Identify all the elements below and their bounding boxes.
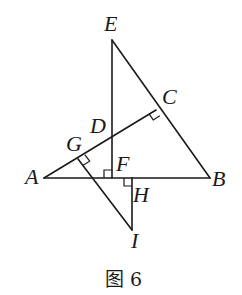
point-label-d: D (90, 115, 106, 137)
figure-lines (0, 0, 242, 295)
figure-caption: 图 6 (105, 270, 142, 289)
point-label-i: I (131, 230, 138, 252)
right-angle-mark-f (104, 170, 112, 178)
point-label-b: B (212, 168, 225, 190)
geometry-figure: E C D G A F B H I 图 6 (0, 0, 242, 295)
right-angle-mark-g (83, 155, 90, 166)
point-label-e: E (104, 13, 117, 35)
right-angle-mark-h (124, 178, 132, 186)
point-label-c: C (162, 86, 177, 108)
point-label-g: G (66, 133, 82, 155)
point-label-f: F (116, 153, 129, 175)
point-label-a: A (25, 166, 38, 188)
right-angle-mark-c (149, 114, 160, 120)
point-label-h: H (133, 184, 149, 206)
